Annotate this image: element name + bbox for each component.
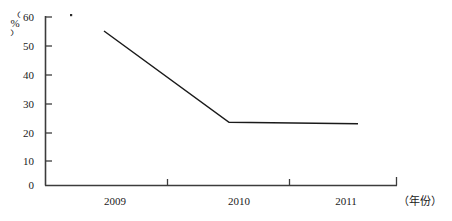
stray-dot-mark [70, 14, 72, 16]
plot-area [0, 0, 452, 221]
line-chart: （ % ） 60 50 40 30 20 10 0 2009 2010 2011… [0, 0, 452, 221]
data-series-line [104, 31, 358, 124]
y-axis-ticks [46, 17, 53, 161]
x-axis-ticks [168, 177, 397, 186]
